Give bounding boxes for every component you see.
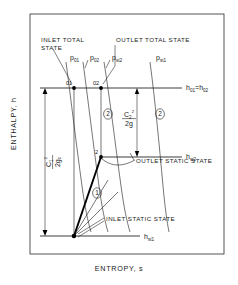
outlet-velocity-head-fraction: C22 2g	[122, 109, 136, 127]
pressure-label-pst2-sub: st2	[116, 58, 123, 63]
pressure-label-pst1-sub: st1	[160, 58, 167, 63]
inlet-velocity-head-numerator-sup: 2	[43, 156, 48, 159]
leader-outlet-static-state	[130, 153, 134, 160]
inlet-static-state-label: INLET STATIC STATE	[106, 215, 175, 222]
enthalpy-label-h0: h01=h02	[186, 84, 209, 93]
dimension-arrow-bottom-inlet	[43, 230, 48, 236]
dimension-arrow-top-outlet	[135, 88, 139, 94]
dimension-arrow-top-inlet	[43, 88, 48, 94]
pressure-label-p01: p01	[70, 54, 79, 63]
figure-page: ENTHALPY, h ENTROPY, s INLET TOTAL STATE…	[0, 0, 238, 285]
pressure-label-pst2: pst2	[112, 54, 122, 63]
process-marker-2-right: 2	[156, 109, 165, 119]
process-marker-2-left: 2	[104, 109, 113, 119]
state-point-01-label: 01	[66, 80, 72, 86]
pressure-label-p01-sub: 01	[74, 58, 80, 63]
pressure-label-p02-sub: 02	[94, 58, 100, 63]
isobar-p01-line	[66, 62, 91, 232]
process-marker-2-right-label: 2	[158, 110, 162, 117]
inlet-velocity-head-denominator-base: 2g	[54, 159, 62, 167]
inlet-total-state-label-line1: INLET TOTAL	[41, 36, 84, 43]
enthalpy-label-hst1: hst1	[144, 233, 154, 242]
process-marker-1-label: 1	[95, 189, 99, 196]
enthalpy-entropy-diagram: ENTHALPY, h ENTROPY, s INLET TOTAL STATE…	[0, 0, 238, 285]
inlet-velocity-head-denominator: 2gc	[54, 156, 63, 167]
outlet-velocity-head-numerator: C22	[124, 109, 135, 119]
enthalpy-label-hst2-sub: st2	[190, 157, 197, 162]
pressure-label-p02: p02	[90, 54, 99, 63]
process-path-1-to-2	[74, 157, 101, 236]
leader-pst2	[106, 60, 110, 68]
isobar-pst1-line	[150, 62, 169, 232]
pressure-label-pst1: pst1	[156, 54, 166, 63]
outlet-velocity-head-numerator-sup: 2	[132, 109, 135, 114]
leader-outlet-total-state	[103, 45, 115, 84]
enthalpy-label-h0-sub2: 02	[203, 88, 209, 93]
inlet-total-state-label-line2: STATE	[41, 44, 62, 51]
state-point-02-marker	[99, 86, 103, 90]
state-point-2-marker	[99, 155, 103, 159]
x-axis-label: ENTROPY, s	[95, 264, 143, 273]
outlet-total-state-label: OUTLET TOTAL STATE	[116, 36, 190, 43]
isobar-p02-line	[83, 62, 108, 232]
enthalpy-label-hst1-sub: st1	[148, 237, 155, 242]
state-point-inlet-static-marker	[72, 234, 77, 239]
state-point-02-label: 02	[93, 80, 99, 86]
inlet-velocity-head-denominator-sub: c	[57, 156, 62, 159]
outlet-static-state-label: OUTLET STATIC STATE	[136, 157, 212, 164]
state-point-01-marker	[72, 86, 76, 90]
isobar-pst2-line	[104, 62, 130, 232]
outlet-velocity-head-denominator: 2g	[125, 120, 133, 128]
state-point-2-label: 2	[95, 149, 98, 155]
inlet-velocity-head-fraction: C12 2gc	[43, 155, 62, 169]
leader-p02	[85, 60, 88, 68]
process-marker-2-left-label: 2	[106, 110, 110, 117]
y-axis-label: ENTHALPY, h	[9, 97, 18, 150]
